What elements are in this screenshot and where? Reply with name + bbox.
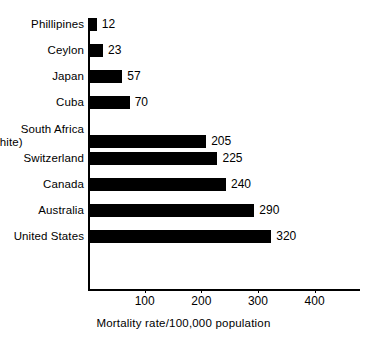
x-axis-tick-mark bbox=[315, 289, 316, 293]
bar bbox=[90, 152, 217, 165]
bar-row-label: Cuba bbox=[0, 96, 84, 108]
bar-row-label: Canada bbox=[0, 178, 84, 190]
x-axis-tick-mark bbox=[201, 289, 202, 293]
bar-row-label: Ceylon bbox=[0, 44, 84, 56]
bar-value-label: 23 bbox=[108, 44, 121, 57]
x-axis-tick-label: 300 bbox=[238, 294, 278, 308]
bar-row-label: Switzerland bbox=[0, 152, 84, 164]
bar-value-label: 205 bbox=[211, 135, 231, 148]
bar-row-label: Phillipines bbox=[0, 18, 84, 30]
bar-row: United States320 bbox=[0, 230, 367, 256]
bar-row: Canada240 bbox=[0, 178, 367, 204]
bar-row: Australia290 bbox=[0, 204, 367, 230]
plot-area: Phillipines12Ceylon23Japan57Cuba70South … bbox=[0, 0, 367, 342]
bar-row-label-sub: (white) bbox=[0, 136, 84, 149]
bar bbox=[90, 44, 103, 57]
bar-chart: Phillipines12Ceylon23Japan57Cuba70South … bbox=[0, 0, 367, 342]
bar-row-label: South Africa(white) bbox=[0, 123, 84, 148]
bar-rows: Phillipines12Ceylon23Japan57Cuba70South … bbox=[0, 18, 367, 256]
bar bbox=[90, 178, 226, 191]
bar-row-label: Australia bbox=[0, 204, 84, 216]
bar-value-label: 290 bbox=[259, 204, 279, 217]
bar-value-label: 225 bbox=[222, 152, 242, 165]
bar bbox=[90, 230, 271, 243]
bar-row-label: United States bbox=[0, 230, 84, 242]
x-axis-tick-mark bbox=[145, 289, 146, 293]
bar-value-label: 240 bbox=[231, 178, 251, 191]
x-axis-caption: Mortality rate/100,000 population bbox=[0, 317, 367, 329]
bar-value-label: 320 bbox=[276, 230, 296, 243]
bar-row: Phillipines12 bbox=[0, 18, 367, 44]
x-axis-tick-label: 200 bbox=[181, 294, 221, 308]
x-axis-tick-label: 400 bbox=[295, 294, 335, 308]
bar-row: South Africa(white)205 bbox=[0, 122, 367, 152]
bar bbox=[90, 96, 130, 109]
bar-row: Ceylon23 bbox=[0, 44, 367, 70]
bar bbox=[90, 204, 254, 217]
bar bbox=[90, 70, 122, 83]
bar-row: Japan57 bbox=[0, 70, 367, 96]
bar bbox=[90, 135, 206, 148]
bar-row: Cuba70 bbox=[0, 96, 367, 122]
x-axis-tick-mark bbox=[258, 289, 259, 293]
x-axis-line bbox=[88, 289, 360, 291]
x-axis-tick-label: 100 bbox=[125, 294, 165, 308]
bar-value-label: 12 bbox=[102, 18, 115, 31]
bar bbox=[90, 18, 97, 31]
bar-row-label: Japan bbox=[0, 70, 84, 82]
bar-value-label: 57 bbox=[127, 70, 140, 83]
bar-row: Switzerland225 bbox=[0, 152, 367, 178]
bar-value-label: 70 bbox=[135, 96, 148, 109]
